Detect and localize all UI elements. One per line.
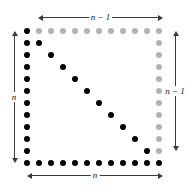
grid-dot <box>24 88 30 94</box>
grid-dot <box>72 160 78 166</box>
grid-dot <box>96 100 102 106</box>
grid-dot <box>48 28 54 34</box>
dimension-bottom-arrowhead-left-icon <box>27 173 32 179</box>
grid-dot <box>24 160 30 166</box>
dimension-top-arrowhead-right-icon <box>158 15 163 21</box>
dimension-right-arrowhead-up-icon <box>173 31 179 36</box>
dimension-bottom-arrowhead-right-icon <box>158 173 163 179</box>
grid-dot <box>156 112 162 118</box>
grid-dot <box>156 160 162 166</box>
grid-dot <box>132 160 138 166</box>
grid-dot <box>36 160 42 166</box>
grid-dot <box>48 160 54 166</box>
grid-dot <box>24 112 30 118</box>
grid-dot <box>156 136 162 142</box>
dimension-bottom-label: n <box>91 170 100 180</box>
grid-dot <box>144 148 150 154</box>
grid-dot <box>36 28 42 34</box>
grid-dot <box>120 28 126 34</box>
grid-dot <box>156 88 162 94</box>
grid-dot <box>108 160 114 166</box>
grid-dot <box>156 100 162 106</box>
grid-dot <box>156 40 162 46</box>
grid-dot <box>72 76 78 82</box>
grid-dot <box>24 76 30 82</box>
dimension-right-label: n − 1 <box>163 86 187 96</box>
dot-grid-diagram: n − 1 n n − 1 n <box>0 0 188 187</box>
grid-dot <box>144 28 150 34</box>
grid-dot <box>24 52 30 58</box>
grid-dot <box>96 160 102 166</box>
dimension-top-arrowhead-left-icon <box>38 15 43 21</box>
grid-dot <box>156 124 162 130</box>
dimension-left-arrowhead-down-icon <box>12 158 18 163</box>
grid-dot <box>156 64 162 70</box>
dimension-left-arrowhead-up-icon <box>12 31 18 36</box>
grid-dot <box>120 160 126 166</box>
grid-dot <box>156 148 162 154</box>
grid-dot <box>108 28 114 34</box>
grid-dot <box>60 64 66 70</box>
grid-dot <box>108 112 114 118</box>
grid-dot <box>24 64 30 70</box>
grid-dot <box>96 28 102 34</box>
grid-dot <box>48 52 54 58</box>
grid-dot <box>84 28 90 34</box>
grid-dot <box>84 160 90 166</box>
grid-dot <box>24 100 30 106</box>
grid-dot <box>24 124 30 130</box>
grid-dot <box>132 28 138 34</box>
grid-dot <box>156 76 162 82</box>
dimension-right-arrowhead-down-icon <box>173 146 179 151</box>
grid-dot <box>24 148 30 154</box>
grid-dot <box>144 160 150 166</box>
grid-dot <box>84 88 90 94</box>
grid-dot <box>24 28 30 34</box>
grid-dot <box>36 40 42 46</box>
dimension-left-label: n <box>10 92 19 102</box>
grid-dot <box>156 28 162 34</box>
dimension-top-label: n − 1 <box>89 12 113 22</box>
grid-dot <box>120 124 126 130</box>
grid-dot <box>156 52 162 58</box>
grid-dot <box>24 40 30 46</box>
grid-dot <box>60 160 66 166</box>
grid-dot <box>132 136 138 142</box>
grid-dot <box>60 28 66 34</box>
grid-dot <box>72 28 78 34</box>
grid-dot <box>24 136 30 142</box>
